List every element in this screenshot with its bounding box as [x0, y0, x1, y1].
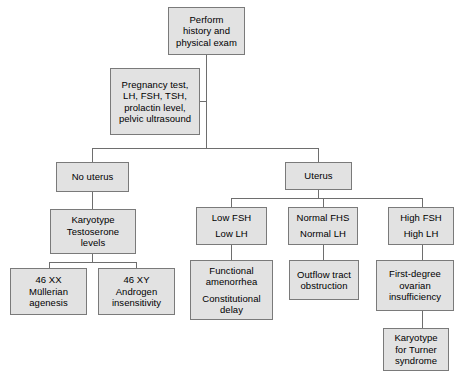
node-high-fsh-high-lh[interactable]: High FSH High LH	[388, 207, 454, 245]
node-line: Perform	[189, 14, 223, 26]
node-line: levels	[81, 237, 106, 249]
node-primary-ovarian-insufficiency[interactable]: First-degree ovarian insufficiency	[376, 260, 454, 311]
node-uterus[interactable]: Uterus	[285, 162, 352, 190]
node-line: High LH	[404, 226, 439, 242]
node-karyotype-testosterone[interactable]: Karyotype Testoserone levels	[50, 209, 136, 254]
node-line: Low FSH	[212, 210, 251, 226]
node-line: Testoserone	[67, 226, 119, 238]
edge-uterus-down	[318, 190, 319, 198]
edge-nouterus-karyotype	[92, 192, 93, 209]
node-line: Constitutional	[202, 293, 260, 305]
node-line: syndrome	[395, 355, 437, 367]
edge-karyotype-bar	[49, 262, 136, 263]
edge-highfsh-ovarian	[422, 245, 423, 260]
node-normal-fsh-normal-lh[interactable]: Normal FHS Normal LH	[288, 207, 358, 245]
node-low-fsh-low-lh[interactable]: Low FSH Low LH	[196, 207, 267, 245]
node-initial-labs[interactable]: Pregnancy test, LH, FSH, TSH, prolactin …	[110, 68, 200, 135]
node-line: pelvic ultrasound	[119, 113, 191, 125]
node-line: Müllerian	[29, 286, 68, 298]
edge-to-high-fsh	[422, 198, 423, 207]
edge-to-low-fsh	[231, 198, 232, 207]
node-line: 46 XX	[35, 274, 61, 286]
edge-karyotype-down	[92, 254, 93, 262]
node-line: No uterus	[72, 171, 114, 183]
node-no-uterus[interactable]: No uterus	[56, 162, 129, 192]
node-line: Normal LH	[300, 226, 346, 242]
node-line: Androgen	[116, 286, 158, 298]
node-46xx-mullerian-agenesis[interactable]: 46 XX Müllerian agenesis	[10, 268, 87, 315]
edge-normalfsh-outflow	[323, 245, 324, 260]
node-line: Low LH	[215, 226, 248, 242]
node-line: Normal FHS	[297, 210, 350, 226]
node-line: history and	[183, 25, 230, 37]
node-karyotype-turner-syndrome[interactable]: Karyotype for Turner syndrome	[383, 328, 449, 371]
node-line: Pregnancy test,	[122, 79, 189, 91]
node-line: insensitivity	[112, 297, 161, 309]
node-line: High FSH	[400, 210, 442, 226]
edge-ovarian-turner	[422, 311, 423, 328]
flowchart-canvas: Perform history and physical exam Pregna…	[0, 0, 457, 374]
edge-lowfsh-functional	[231, 245, 232, 260]
edge-to-normal-fsh	[323, 198, 324, 207]
node-functional-amenorrhea-constitutional-delay[interactable]: Functional amenorrhea Constitutional del…	[190, 260, 273, 320]
node-line: agenesis	[29, 297, 67, 309]
node-line: Uterus	[304, 170, 332, 182]
edge-to-uterus	[318, 148, 319, 162]
node-line: Karyotype	[394, 332, 437, 344]
node-line: Outflow tract	[297, 269, 351, 281]
edge-labs-stub	[200, 101, 207, 102]
edge-split-bar-uterus	[92, 148, 319, 149]
node-line: LH, FSH, TSH,	[123, 90, 187, 102]
node-line: amenorrhea	[206, 276, 258, 288]
node-line: Karyotype	[71, 214, 114, 226]
node-line: Functional	[209, 265, 253, 277]
node-line: obstruction	[300, 280, 347, 292]
node-line: First-degree	[389, 268, 441, 280]
node-line: prolactin level,	[124, 102, 186, 114]
edge-to-no-uterus	[92, 148, 93, 162]
node-outflow-tract-obstruction[interactable]: Outflow tract obstruction	[289, 260, 359, 300]
node-line: for Turner	[395, 344, 437, 356]
node-line: physical exam	[176, 37, 237, 49]
node-line: ovarian	[399, 280, 431, 292]
node-line: delay	[220, 304, 243, 316]
node-46xy-androgen-insensitivity[interactable]: 46 XY Androgen insensitivity	[98, 268, 175, 315]
node-perform-history[interactable]: Perform history and physical exam	[168, 7, 245, 55]
node-line: 46 XY	[123, 274, 149, 286]
edge-uterus-bar	[231, 198, 423, 199]
node-line: insufficiency	[389, 291, 441, 303]
